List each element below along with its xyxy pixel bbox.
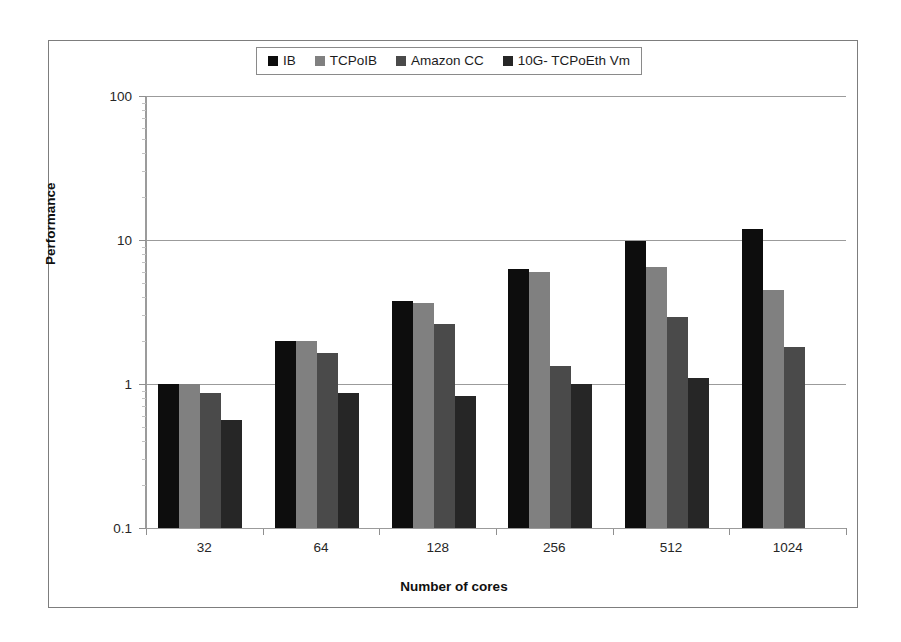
bar bbox=[667, 317, 688, 528]
x-axis-tick bbox=[613, 528, 614, 535]
bar bbox=[550, 366, 571, 528]
bar bbox=[625, 241, 646, 528]
bar bbox=[296, 341, 317, 528]
y-axis-minor-tick bbox=[142, 416, 146, 417]
y-axis-minor-tick bbox=[142, 341, 146, 342]
y-axis-tick bbox=[139, 240, 146, 241]
bar bbox=[688, 378, 709, 528]
y-axis-minor-tick bbox=[142, 272, 146, 273]
bar bbox=[646, 267, 667, 528]
legend-swatch-icon bbox=[396, 56, 406, 66]
y-axis-tick-label: 1 bbox=[72, 377, 132, 392]
y-axis-minor-tick bbox=[142, 197, 146, 198]
y-axis-line bbox=[145, 96, 147, 528]
x-axis-line bbox=[146, 528, 846, 529]
chart-legend: IBTCPoIBAmazon CC10G- TCPoEth Vm bbox=[256, 47, 642, 75]
bar bbox=[158, 384, 179, 528]
legend-label: TCPoIB bbox=[330, 54, 377, 68]
y-axis-minor-tick bbox=[142, 391, 146, 392]
legend-label: 10G- TCPoEth Vm bbox=[518, 54, 630, 68]
bar bbox=[392, 301, 413, 529]
bar bbox=[529, 272, 550, 528]
chart-frame: IBTCPoIBAmazon CC10G- TCPoEth Vm 0.11101… bbox=[48, 40, 858, 608]
x-axis-tick-label: 32 bbox=[197, 540, 212, 555]
x-axis-tick bbox=[263, 528, 264, 535]
gridline-major bbox=[146, 96, 846, 97]
y-axis-minor-tick bbox=[142, 459, 146, 460]
y-axis-minor-tick bbox=[142, 262, 146, 263]
bar bbox=[763, 290, 784, 528]
y-axis-tick-label: 100 bbox=[72, 89, 132, 104]
bar bbox=[200, 393, 221, 528]
bar bbox=[742, 229, 763, 528]
x-axis-tick-label: 64 bbox=[313, 540, 328, 555]
y-axis-tick bbox=[139, 528, 146, 529]
y-axis-minor-tick bbox=[142, 254, 146, 255]
y-axis-minor-tick bbox=[142, 247, 146, 248]
x-axis-tick bbox=[146, 528, 147, 535]
y-axis-tick-label: 0.1 bbox=[72, 521, 132, 536]
y-axis-tick bbox=[139, 96, 146, 97]
x-axis-tick-label: 1024 bbox=[773, 540, 803, 555]
y-axis-minor-tick bbox=[142, 128, 146, 129]
y-axis-minor-tick bbox=[142, 103, 146, 104]
legend-entry: Amazon CC bbox=[396, 54, 484, 68]
y-axis-tick-label: 10 bbox=[72, 233, 132, 248]
y-axis-tick bbox=[139, 384, 146, 385]
legend-entry: IB bbox=[268, 54, 296, 68]
x-axis-title: Number of cores bbox=[49, 579, 859, 594]
y-axis-minor-tick bbox=[142, 297, 146, 298]
legend-entry: 10G- TCPoEth Vm bbox=[503, 54, 630, 68]
legend-swatch-icon bbox=[315, 56, 325, 66]
y-axis-minor-tick bbox=[142, 406, 146, 407]
bar bbox=[455, 396, 476, 528]
legend-label: IB bbox=[283, 54, 296, 68]
legend-swatch-icon bbox=[268, 56, 278, 66]
bar bbox=[317, 353, 338, 528]
y-axis-minor-tick bbox=[142, 315, 146, 316]
y-axis-minor-tick bbox=[142, 485, 146, 486]
plot-area: 0.111010032641282565121024 bbox=[146, 96, 846, 528]
x-axis-tick bbox=[379, 528, 380, 535]
y-axis-minor-tick bbox=[142, 118, 146, 119]
bar bbox=[508, 269, 529, 528]
y-axis-minor-tick bbox=[142, 398, 146, 399]
y-axis-minor-tick bbox=[142, 427, 146, 428]
bar bbox=[179, 384, 200, 528]
bar bbox=[784, 347, 805, 528]
x-axis-tick bbox=[729, 528, 730, 535]
x-axis-tick-label: 128 bbox=[426, 540, 449, 555]
y-axis-minor-tick bbox=[142, 139, 146, 140]
y-axis-title: Performance bbox=[43, 182, 58, 265]
x-axis-tick-label: 512 bbox=[660, 540, 683, 555]
y-axis-minor-tick bbox=[142, 153, 146, 154]
bar bbox=[434, 324, 455, 528]
x-axis-tick-label: 256 bbox=[543, 540, 566, 555]
y-axis-minor-tick bbox=[142, 110, 146, 111]
bar bbox=[221, 420, 242, 528]
legend-swatch-icon bbox=[503, 56, 513, 66]
x-axis-tick bbox=[496, 528, 497, 535]
bar bbox=[275, 341, 296, 528]
y-axis-minor-tick bbox=[142, 171, 146, 172]
bar bbox=[571, 384, 592, 528]
bar bbox=[338, 393, 359, 528]
legend-entry: TCPoIB bbox=[315, 54, 377, 68]
legend-label: Amazon CC bbox=[411, 54, 484, 68]
x-axis-tick bbox=[846, 528, 847, 535]
bar bbox=[413, 303, 434, 528]
y-axis-minor-tick bbox=[142, 283, 146, 284]
y-axis-minor-tick bbox=[142, 441, 146, 442]
